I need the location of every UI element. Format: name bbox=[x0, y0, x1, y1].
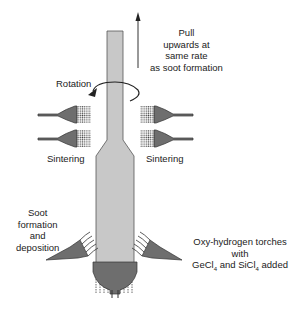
sintering-torch-left-upper bbox=[38, 106, 91, 123]
torches-label: Oxy-hydrogen torches with GeCl4 and SiCl… bbox=[192, 236, 288, 275]
deposition-torch-right bbox=[132, 232, 182, 260]
sintering-torch-right-upper bbox=[140, 106, 193, 123]
pull-arrow-icon bbox=[136, 12, 141, 68]
deposition-torch-bottom bbox=[93, 262, 137, 298]
rotation-label: Rotation bbox=[56, 78, 91, 90]
pull-label: Pull upwards at same rate as soot format… bbox=[150, 27, 223, 73]
sintering-torch-left-lower bbox=[38, 130, 91, 147]
sintering-right-label: Sintering bbox=[146, 153, 184, 165]
soot-formation-label: Soot formation and deposition bbox=[16, 207, 59, 253]
sintering-left-label: Sintering bbox=[47, 153, 85, 165]
sintering-torch-right-lower bbox=[140, 130, 193, 147]
preform-rod bbox=[96, 31, 134, 290]
